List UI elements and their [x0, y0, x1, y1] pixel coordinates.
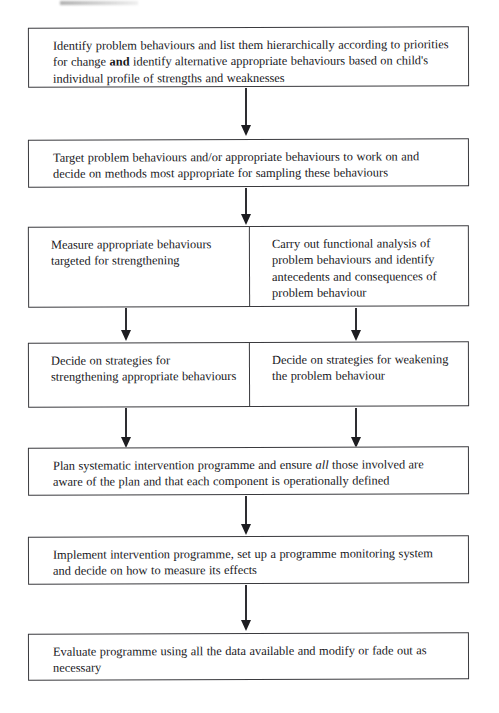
flow-node-implement-intervention[interactable]: Implement intervention programme, set up… — [28, 535, 469, 585]
connector-node1-to-node2 — [238, 88, 254, 136]
node-2-text: Target problem behaviours and/or appropr… — [29, 139, 468, 182]
arrow-shaft — [245, 188, 246, 215]
connector-node3right-to-node4right — [348, 308, 364, 341]
scan-artifact — [60, 1, 138, 5]
connector-node2-to-node3 — [238, 188, 254, 225]
connector-node5-to-node6 — [238, 496, 254, 535]
arrow-head-icon — [241, 620, 251, 631]
flow-node-target-problem-behaviours[interactable]: Target problem behaviours and/or appropr… — [28, 138, 469, 188]
node-3-right-text: Carry out functional analysis of problem… — [250, 226, 468, 301]
node-7-text: Evaluate programme using all the data av… — [29, 633, 468, 676]
arrow-shaft — [245, 496, 246, 525]
connector-node4right-to-node5 — [348, 408, 364, 448]
node-3-left-cell[interactable]: Measure appropriate behaviours targeted … — [29, 227, 249, 307]
flow-node-plan-systematic-intervention[interactable]: Plan systematic intervention programme a… — [28, 446, 469, 496]
connector-node3left-to-node4left — [118, 308, 134, 341]
node-1-cell: Identify problem behaviours and list the… — [29, 27, 468, 87]
arrow-shaft — [245, 88, 246, 126]
arrow-shaft — [125, 408, 126, 438]
arrow-head-icon — [241, 214, 251, 225]
node-4-right-text: Decide on strategies for weakening the p… — [250, 342, 468, 385]
arrow-head-icon — [121, 437, 131, 448]
flowchart-canvas: Identify problem behaviours and list the… — [0, 0, 499, 713]
node-6-text: Implement intervention programme, set up… — [29, 536, 468, 579]
arrow-head-icon — [241, 125, 251, 136]
flow-node-decide-strategies[interactable]: Decide on strategies for strengthening a… — [28, 341, 469, 408]
node-4-left-cell[interactable]: Decide on strategies for strengthening a… — [29, 343, 249, 407]
arrow-shaft — [355, 308, 356, 331]
arrow-shaft — [125, 308, 126, 331]
node-3-left-text: Measure appropriate behaviours targeted … — [29, 227, 249, 270]
arrow-head-icon — [241, 524, 251, 535]
node-2-cell: Target problem behaviours and/or appropr… — [29, 139, 468, 187]
arrow-head-icon — [121, 330, 131, 341]
node-5-text: Plan systematic intervention programme a… — [29, 447, 468, 490]
node-4-left-text: Decide on strategies for strengthening a… — [29, 343, 249, 386]
flow-node-measure-and-analyse[interactable]: Measure appropriate behaviours targeted … — [28, 225, 469, 308]
arrow-shaft — [245, 585, 246, 621]
node-7-cell: Evaluate programme using all the data av… — [29, 633, 468, 680]
flow-node-identify-problem-behaviours[interactable]: Identify problem behaviours and list the… — [28, 26, 469, 88]
node-3-right-cell[interactable]: Carry out functional analysis of problem… — [249, 226, 468, 306]
connector-node4left-to-node5 — [118, 408, 134, 448]
node-5-cell: Plan systematic intervention programme a… — [29, 447, 468, 495]
arrow-head-icon — [351, 330, 361, 341]
connector-node6-to-node7 — [238, 585, 254, 631]
node-4-right-cell[interactable]: Decide on strategies for weakening the p… — [249, 342, 468, 406]
flow-node-evaluate-programme[interactable]: Evaluate programme using all the data av… — [28, 632, 469, 681]
node-6-cell: Implement intervention programme, set up… — [29, 536, 468, 584]
arrow-shaft — [355, 408, 356, 438]
node-1-text: Identify problem behaviours and list the… — [29, 27, 468, 87]
